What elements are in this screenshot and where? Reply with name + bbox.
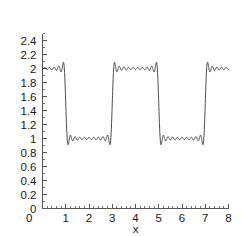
y-tick-label: 1 (30, 133, 36, 145)
x-tick-label: 8 (225, 212, 231, 224)
x-tick-label: 1 (63, 212, 69, 224)
chart-figure: 00.20.40.60.811.21.41.61.822.22.4 012345… (0, 0, 241, 236)
y-tick-label: 0.2 (21, 189, 37, 201)
y-tick-label: 1.6 (21, 91, 37, 103)
y-tick-label: 1.8 (21, 77, 37, 89)
y-tick-label: 0.6 (21, 161, 37, 173)
y-tick-label: 2.4 (21, 35, 38, 47)
x-axis-title: x (133, 223, 139, 235)
y-tick-label: 0.4 (21, 175, 38, 187)
y-tick-label: 1.2 (21, 119, 37, 131)
y-tick-label: 1.4 (21, 105, 38, 117)
x-tick-label: 0 (26, 212, 32, 224)
y-tick-label: 2 (30, 63, 36, 75)
y-tick-label: 0.8 (21, 147, 37, 159)
x-tick-label: 5 (156, 212, 162, 224)
x-tick-label: 6 (179, 212, 185, 224)
x-tick-label: 3 (109, 212, 115, 224)
x-tick-label: 7 (202, 212, 208, 224)
x-tick-label: 2 (86, 212, 92, 224)
y-tick-label: 2.2 (21, 49, 37, 61)
